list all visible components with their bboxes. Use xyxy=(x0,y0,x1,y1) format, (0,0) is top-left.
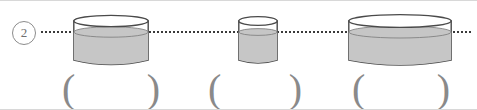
answer-value[interactable] xyxy=(366,79,436,99)
right-parenthesis: ) xyxy=(437,71,450,107)
question-number-badge: 2 xyxy=(12,21,36,45)
left-parenthesis: ( xyxy=(352,71,365,107)
liquid-surface-ellipse xyxy=(74,27,148,37)
right-parenthesis: ) xyxy=(147,71,160,107)
right-parenthesis: ) xyxy=(289,71,302,107)
liquid-surface-ellipse xyxy=(239,29,277,36)
left-parenthesis: ( xyxy=(208,71,221,107)
answer-value[interactable] xyxy=(76,79,146,99)
answer-blank-cylinder-2[interactable]: ( ) xyxy=(208,71,302,107)
answer-blank-cylinder-3[interactable]: ( ) xyxy=(352,71,450,107)
cylinder-widest-right xyxy=(348,14,452,70)
worksheet-figure: 2 ( xyxy=(0,0,477,110)
cylinder-top-rim xyxy=(74,15,148,26)
cylinder-narrow-middle xyxy=(238,16,278,68)
answer-blank-cylinder-1[interactable]: ( ) xyxy=(62,71,160,107)
cylinder-top-rim xyxy=(349,15,451,28)
left-parenthesis: ( xyxy=(62,71,75,107)
cylinder-liquid xyxy=(239,32,277,63)
cylinder-wide-left xyxy=(73,15,149,69)
cylinder-top-rim xyxy=(239,17,277,26)
answer-value[interactable] xyxy=(222,79,288,99)
